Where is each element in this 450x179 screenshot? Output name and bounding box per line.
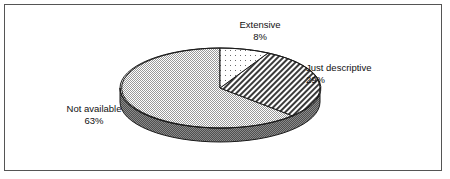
slice-label-not-available: Not available 63% [24, 103, 164, 127]
slice-label-not-available-name: Not available [67, 103, 122, 114]
slice-label-just-descriptive-name: Just descriptive [306, 62, 371, 73]
slice-label-extensive-value: 8% [198, 31, 322, 43]
slice-label-just-descriptive: Just descriptive 29% [306, 62, 446, 86]
slice-label-extensive-name: Extensive [239, 19, 280, 30]
slice-label-not-available-value: 63% [24, 115, 164, 127]
slice-label-extensive: Extensive 8% [198, 19, 322, 43]
slice-label-just-descriptive-value: 29% [306, 74, 446, 86]
pie-chart-figure: Extensive 8% Just descriptive 29% Not av… [0, 0, 450, 179]
